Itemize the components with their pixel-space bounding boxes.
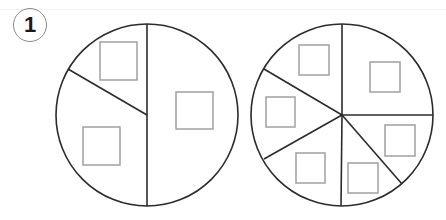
answer-box[interactable] bbox=[348, 163, 378, 193]
answer-box[interactable] bbox=[83, 127, 120, 165]
answer-box[interactable] bbox=[176, 92, 213, 129]
answer-box[interactable] bbox=[296, 153, 325, 183]
answer-box[interactable] bbox=[100, 42, 137, 80]
answer-box[interactable] bbox=[266, 97, 295, 127]
circle-divided-3 bbox=[56, 24, 238, 206]
answer-box[interactable] bbox=[370, 62, 400, 92]
circle-divided-6 bbox=[251, 24, 433, 206]
fraction-circles bbox=[0, 0, 446, 220]
answer-box[interactable] bbox=[299, 45, 329, 75]
answer-box[interactable] bbox=[385, 125, 415, 156]
